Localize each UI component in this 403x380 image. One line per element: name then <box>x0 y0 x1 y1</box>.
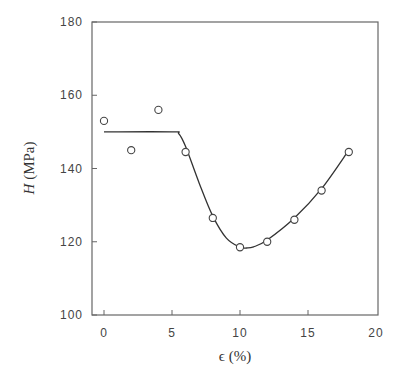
x-tick-label: 5 <box>168 326 176 340</box>
x-tick-label: 15 <box>300 326 315 340</box>
y-tick-label: 100 <box>60 308 83 322</box>
x-tick-label: 0 <box>100 326 108 340</box>
x-tick-label: 10 <box>232 326 247 340</box>
y-tick-label: 140 <box>60 162 83 176</box>
y-tick-label: 120 <box>60 235 83 249</box>
data-point <box>128 147 135 154</box>
data-point <box>345 148 352 155</box>
data-point <box>182 148 189 155</box>
chart: 10012014016018005101520ϵ (%)H (MPa) <box>0 0 403 380</box>
x-tick-label: 20 <box>368 326 383 340</box>
y-tick-label: 160 <box>60 88 83 102</box>
data-point <box>318 187 325 194</box>
fit-curve <box>104 132 349 249</box>
y-tick-label: 180 <box>60 15 83 29</box>
data-point <box>209 214 216 221</box>
data-point <box>291 216 298 223</box>
data-point <box>264 238 271 245</box>
x-axis-label: ϵ (%) <box>219 348 251 365</box>
data-point <box>236 244 243 251</box>
data-point <box>100 117 107 124</box>
y-axis-label: H (MPa) <box>21 142 38 196</box>
plot-frame <box>92 22 378 315</box>
data-point <box>155 106 162 113</box>
